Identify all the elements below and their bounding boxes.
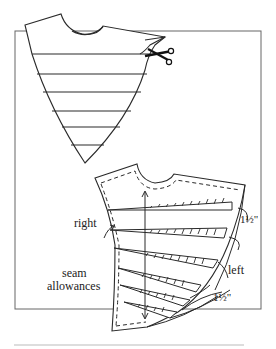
label-seam: seam: [62, 267, 87, 279]
label-allowances: allowances: [47, 280, 100, 292]
pattern-diagram: [0, 0, 276, 349]
label-right: right: [74, 217, 97, 229]
label-left: left: [228, 264, 244, 276]
caption-cutoff: [14, 341, 244, 349]
measurement-bottom: 1½": [213, 292, 231, 303]
top-pattern-piece: [25, 14, 165, 163]
measurement-top: 1½": [240, 214, 258, 225]
bottom-pattern-piece: [95, 164, 245, 331]
scissors-icon: [145, 48, 174, 64]
